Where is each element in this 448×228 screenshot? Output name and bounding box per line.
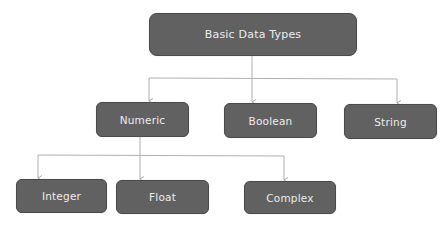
root-connectors bbox=[149, 56, 397, 103]
node-numeric: Numeric bbox=[96, 102, 189, 137]
numeric-connectors bbox=[38, 137, 284, 180]
node-label: Float bbox=[149, 191, 176, 203]
node-label: String bbox=[374, 116, 407, 128]
node-float: Float bbox=[116, 180, 209, 214]
node-boolean: Boolean bbox=[224, 103, 317, 138]
node-label: Boolean bbox=[249, 115, 293, 127]
node-label: Basic Data Types bbox=[205, 28, 302, 41]
node-label: Complex bbox=[266, 192, 313, 204]
node-integer: Integer bbox=[16, 179, 107, 213]
node-basic-data-types: Basic Data Types bbox=[149, 13, 357, 56]
node-label: Integer bbox=[42, 190, 81, 202]
node-label: Numeric bbox=[120, 114, 166, 126]
node-string: String bbox=[344, 104, 437, 139]
node-complex: Complex bbox=[244, 181, 336, 214]
data-types-diagram: Basic Data Types Numeric Boolean String … bbox=[0, 0, 448, 228]
